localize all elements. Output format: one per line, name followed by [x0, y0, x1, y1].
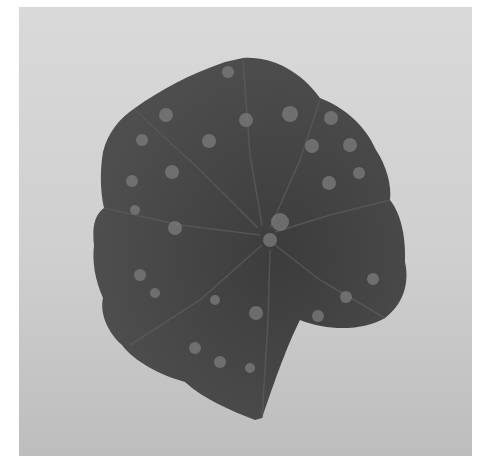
- lesion-spot: [189, 342, 201, 354]
- lesion-spot: [343, 138, 357, 152]
- lesion-spot: [324, 111, 338, 125]
- leaf-photo: [19, 7, 472, 456]
- lesion-spot: [130, 205, 140, 215]
- lesion-spot: [340, 291, 352, 303]
- lesion-spot: [249, 306, 263, 320]
- lesion-spot: [210, 295, 220, 305]
- lesion-spot: [214, 356, 226, 368]
- lesion-spot: [126, 175, 138, 187]
- lesion-spot: [150, 288, 160, 298]
- lesion-spot: [312, 310, 324, 322]
- lesion-spot: [322, 176, 336, 190]
- lesion-spot: [367, 273, 379, 285]
- lesion-spot: [271, 213, 289, 231]
- lesion-spot: [165, 165, 179, 179]
- lesion-spot: [159, 108, 173, 122]
- lesion-spot: [263, 233, 277, 247]
- lesion-spot: [282, 106, 298, 122]
- lesion-spot: [136, 134, 148, 146]
- lesion-spot: [305, 139, 319, 153]
- lesion-spot: [239, 113, 253, 127]
- leaf-illustration: [19, 7, 472, 456]
- lesion-spot: [202, 134, 216, 148]
- lesion-spot: [353, 167, 365, 179]
- lesion-spot: [134, 269, 146, 281]
- lesion-spot: [168, 221, 182, 235]
- lesion-spot: [245, 363, 255, 373]
- lesion-spot: [222, 66, 234, 78]
